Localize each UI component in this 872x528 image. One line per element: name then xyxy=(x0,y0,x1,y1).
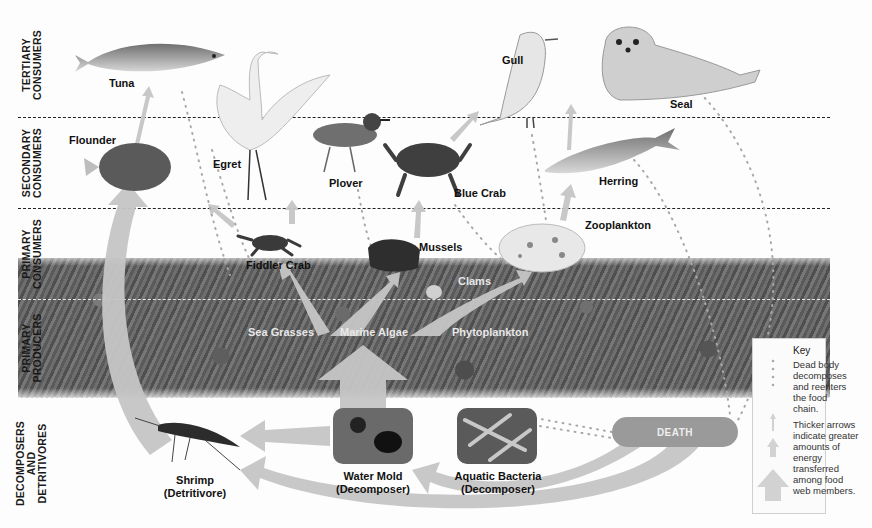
label-aquatic-bacteria-name: Aquatic Bacteria xyxy=(448,470,548,483)
label-blue-crab: Blue Crab xyxy=(454,187,506,199)
label-sea-grasses: Sea Grasses xyxy=(248,326,314,338)
flounder-illustration xyxy=(84,143,171,191)
arrow-fiddler-to-plover xyxy=(285,200,299,224)
death-pill: DEATH xyxy=(612,417,738,447)
arrow-zooplankton-to-herring xyxy=(560,184,576,221)
label-phytoplankton: Phytoplankton xyxy=(452,326,528,338)
aquatic-bacteria-thumbnail xyxy=(457,408,537,464)
label-shrimp-role: (Detritivore) xyxy=(150,487,240,500)
arrow-seagrass-to-fiddler xyxy=(278,262,330,336)
fiddler-crab-illustration xyxy=(238,235,300,255)
label-flounder: Flounder xyxy=(69,134,116,146)
arrow-bluecrab-to-gull xyxy=(450,111,479,142)
herring-illustration xyxy=(545,128,680,173)
label-plover: Plover xyxy=(329,177,363,189)
label-zooplankton: Zooplankton xyxy=(585,219,651,231)
label-gull: Gull xyxy=(502,54,523,66)
label-shrimp-name: Shrimp xyxy=(150,474,240,487)
key-thin-arrow-icon xyxy=(770,413,776,431)
clams-illustration xyxy=(426,285,442,299)
dotted-path-to-bacteria xyxy=(535,418,612,432)
label-water-mold-name: Water Mold xyxy=(326,470,420,483)
arrow-mussels-to-bluecrab xyxy=(411,200,426,238)
key-dotted-icon xyxy=(772,360,775,387)
label-aquatic-bacteria-role: (Decomposer) xyxy=(448,483,548,496)
label-fiddler-crab: Fiddler Crab xyxy=(246,259,311,271)
key-medium-arrow-icon xyxy=(767,438,779,457)
key-legend: Key Dead body decomposes and reenters th… xyxy=(752,338,826,514)
label-clams: Clams xyxy=(458,275,491,287)
label-seal: Seal xyxy=(670,98,693,110)
water-mold-thumbnail xyxy=(333,408,413,464)
tuna-illustration xyxy=(75,44,225,72)
label-mussels: Mussels xyxy=(419,241,462,253)
gull-illustration xyxy=(480,32,558,128)
label-herring: Herring xyxy=(599,175,638,187)
seal-illustration xyxy=(602,27,760,100)
arrow-herring-to-seal xyxy=(565,104,577,150)
egret-illustration xyxy=(217,52,330,200)
label-egret: Egret xyxy=(213,158,241,170)
zooplankton-illustration xyxy=(499,224,585,272)
label-shrimp: Shrimp (Detritivore) xyxy=(150,474,240,500)
dotted-path-herring xyxy=(634,160,730,415)
key-thick-arrow-icon xyxy=(757,469,789,501)
plover-illustration xyxy=(313,113,390,172)
arrow-flounder-to-tuna xyxy=(134,86,154,149)
label-marine-algae: Marine Algae xyxy=(340,326,408,338)
key-arrow-description: Thicker arrows indicate greater amounts … xyxy=(793,419,859,496)
label-tuna: Tuna xyxy=(109,77,134,89)
dotted-path-to-bacteria-2 xyxy=(540,426,612,438)
label-water-mold-role: (Decomposer) xyxy=(326,483,420,496)
label-aquatic-bacteria: Aquatic Bacteria (Decomposer) xyxy=(448,470,548,496)
key-dotted-description: Dead body decomposes and reenters the fo… xyxy=(793,359,855,414)
mussels-illustration xyxy=(368,239,420,271)
arrow-watermold-to-shrimp xyxy=(240,420,330,452)
food-web-diagram: TERTIARY CONSUMERS SECONDARY CONSUMERS P… xyxy=(0,0,872,528)
label-water-mold: Water Mold (Decomposer) xyxy=(326,470,420,496)
arrow-shrimp-to-flounder xyxy=(102,183,172,455)
